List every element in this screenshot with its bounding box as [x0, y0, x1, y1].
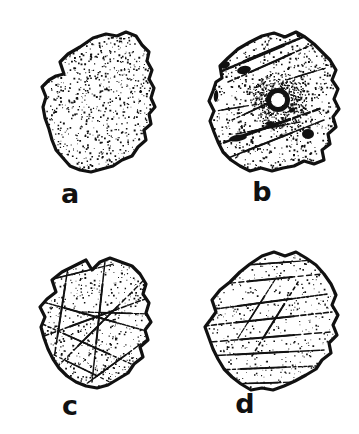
grain-drawing-b [192, 16, 350, 184]
panel-a [18, 14, 168, 184]
surface-line-accent [245, 383, 278, 384]
panel-label-b: b [242, 178, 282, 205]
panel-label-c: c [50, 392, 90, 419]
inclusion-blob [302, 129, 314, 139]
vesicle-core [272, 94, 285, 107]
panel-d [190, 238, 350, 400]
panel-c [22, 240, 168, 400]
grain-drawing-a [18, 14, 168, 184]
grain-drawing-c [22, 240, 168, 400]
panel-b [192, 16, 350, 184]
panel-label-d: d [225, 390, 265, 417]
panel-label-a: a [50, 180, 90, 207]
grain-drawing-d [190, 238, 350, 400]
figure-plate: abcd [0, 0, 359, 434]
surface-line-accent [100, 313, 132, 314]
